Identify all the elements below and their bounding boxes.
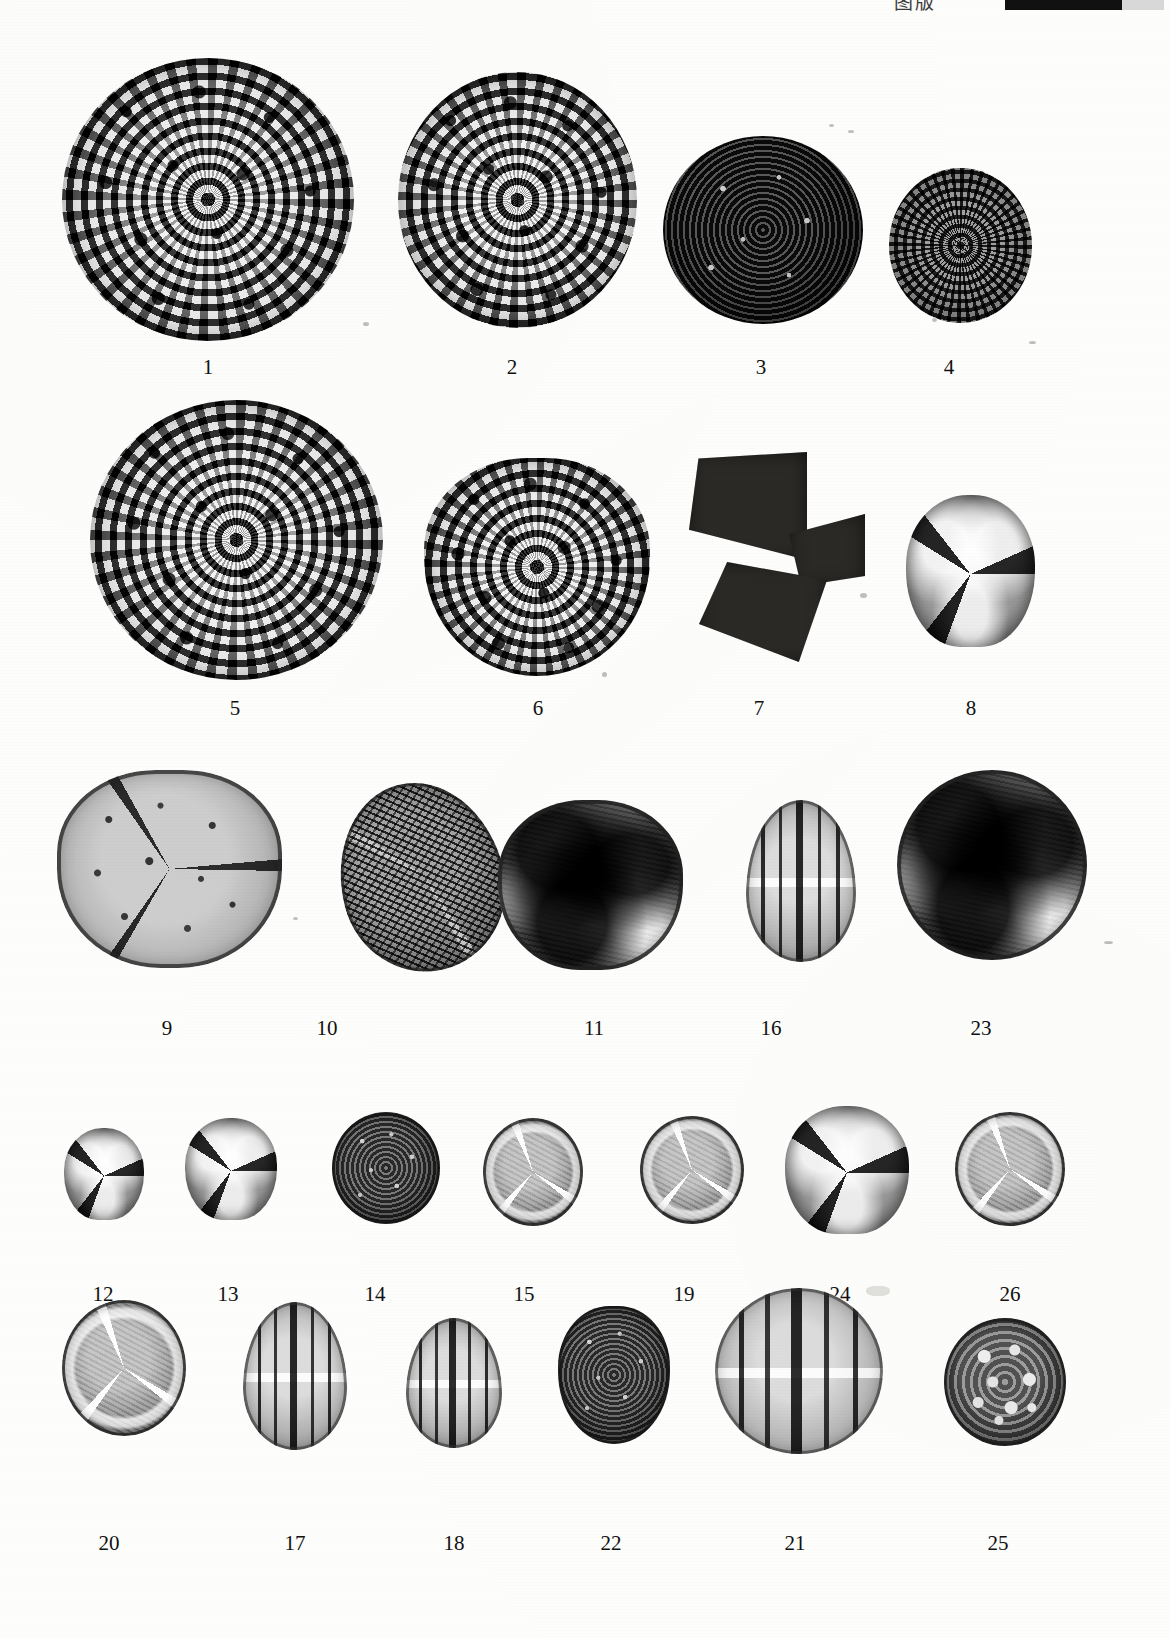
specimen-26-label: 26 [980,1284,1040,1305]
specimen-19 [640,1116,744,1224]
dust-speck [602,672,607,677]
specimen-22 [558,1306,670,1444]
specimen-2-micrograph [398,72,637,328]
specimen-9-micrograph [57,770,282,968]
specimen-17 [243,1302,347,1450]
specimen-23 [897,770,1087,960]
specimen-22-micrograph [558,1306,670,1444]
specimen-25-micrograph [944,1318,1066,1446]
specimen-16-micrograph [746,800,856,962]
specimen-15 [483,1118,583,1226]
specimen-1-micrograph [62,58,354,341]
specimen-1 [62,58,354,341]
specimen-10-micrograph [319,765,523,989]
specimen-20-micrograph [62,1300,186,1436]
specimen-21-label: 21 [765,1533,825,1554]
specimen-17-label: 17 [265,1533,325,1554]
specimen-4-micrograph [889,168,1032,323]
specimen-8 [906,495,1035,647]
specimen-13 [185,1118,277,1220]
specimen-4-label: 4 [919,357,979,378]
specimen-5 [90,400,383,680]
specimen-7 [669,452,859,662]
specimen-23-label: 23 [951,1018,1011,1039]
specimen-7-lobe-lower [699,562,827,662]
dust-speck [1029,341,1036,344]
specimen-17-micrograph [243,1302,347,1450]
specimen-23-micrograph [897,770,1087,960]
plate-header: 图版 [0,0,1170,30]
specimen-14-label: 14 [345,1284,405,1305]
specimen-20 [62,1300,186,1436]
dust-speck [860,593,867,598]
specimen-11-label: 11 [564,1018,624,1039]
specimen-15-label: 15 [494,1284,554,1305]
specimen-12-micrograph [64,1128,144,1220]
specimen-3 [663,136,863,324]
specimen-24-micrograph [785,1106,909,1234]
specimen-3-label: 3 [731,357,791,378]
dust-speck [293,917,298,920]
specimen-26-micrograph [955,1112,1065,1226]
specimen-3-micrograph [663,136,863,324]
specimen-22-label: 22 [581,1533,641,1554]
specimen-24 [785,1106,909,1234]
dust-speck [1104,941,1113,944]
specimen-16-label: 16 [741,1018,801,1039]
specimen-14 [332,1112,440,1224]
specimen-13-micrograph [185,1118,277,1220]
dust-speck [613,625,619,629]
specimen-5-micrograph [90,400,383,680]
specimen-11 [498,800,683,970]
specimen-2-label: 2 [482,357,542,378]
scale-bar [1005,0,1122,10]
specimen-19-micrograph [640,1116,744,1224]
specimen-26 [955,1112,1065,1226]
specimen-18 [406,1318,502,1448]
specimen-4 [889,168,1032,323]
specimen-2 [398,72,637,328]
specimen-6-micrograph [424,458,650,676]
dust-speck [714,1199,719,1203]
specimen-20-label: 20 [79,1533,139,1554]
specimen-14-micrograph [332,1112,440,1224]
specimen-7-lobe-upper [689,452,807,560]
dust-speck [848,130,854,133]
scale-bar-tail [1122,0,1164,10]
specimen-10 [340,782,503,972]
dust-speck [363,322,369,326]
specimen-25-label: 25 [968,1533,1028,1554]
specimen-21 [715,1288,883,1454]
specimen-7-label: 7 [729,698,789,719]
specimen-8-micrograph [906,495,1035,647]
dust-speck [829,124,834,127]
specimen-9-label: 9 [137,1018,197,1039]
specimen-8-label: 8 [941,698,1001,719]
specimen-21-micrograph [715,1288,883,1454]
specimen-1-label: 1 [178,357,238,378]
specimen-15-micrograph [483,1118,583,1226]
specimen-18-micrograph [406,1318,502,1448]
specimen-5-label: 5 [205,698,265,719]
plate-caption-text: 图版 [855,0,975,14]
specimen-6 [424,458,650,676]
specimen-16 [746,800,856,962]
specimen-11-micrograph [498,800,683,970]
specimen-6-label: 6 [508,698,568,719]
specimen-19-label: 19 [654,1284,714,1305]
specimen-12 [64,1128,144,1220]
specimen-18-label: 18 [424,1533,484,1554]
dust-speck [866,1286,890,1296]
specimen-9 [57,770,282,968]
specimen-25 [944,1318,1066,1446]
dust-speck [932,318,937,322]
specimen-10-label: 10 [297,1018,357,1039]
